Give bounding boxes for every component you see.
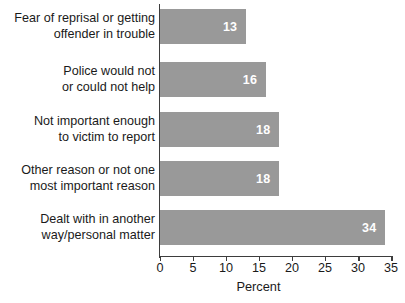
category-label: Not important enough to victim to report — [8, 114, 160, 145]
category-label-line: Fear of reprisal or getting — [8, 11, 155, 27]
bar-value-label: 18 — [256, 123, 270, 136]
bar-chart: Fear of reprisal or getting offender in … — [0, 0, 405, 303]
category-label-line: Dealt with in another — [8, 212, 155, 228]
x-tick-label: 5 — [189, 261, 196, 276]
category-label: Other reason or not one most important r… — [8, 163, 160, 194]
bar[interactable]: 18 — [160, 112, 279, 147]
bar[interactable]: 13 — [160, 9, 246, 44]
plot-area: 13 16 18 18 34 — [160, 4, 392, 257]
x-tick-label: 35 — [384, 261, 398, 276]
x-tick-label: 15 — [252, 261, 266, 276]
bar-value-label: 34 — [362, 221, 376, 234]
bar[interactable]: 34 — [160, 210, 385, 245]
category-axis-labels: Fear of reprisal or getting offender in … — [0, 0, 160, 303]
category-label-line: Not important enough — [8, 114, 155, 130]
x-tick-label: 10 — [219, 261, 233, 276]
bar-value-label: 18 — [256, 172, 270, 185]
x-tick-label: 20 — [285, 261, 299, 276]
x-tick-label: 0 — [156, 261, 163, 276]
category-label: Dealt with in another way/personal matte… — [8, 212, 160, 243]
x-axis-title: Percent — [236, 279, 280, 294]
x-axis-title-wrap: Percent — [0, 279, 405, 294]
category-label: Fear of reprisal or getting offender in … — [8, 11, 160, 42]
category-label-line: offender in trouble — [8, 27, 155, 43]
x-tick-label: 30 — [351, 261, 365, 276]
category-label-line: most important reason — [8, 179, 155, 195]
category-label-line: Other reason or not one — [8, 163, 155, 179]
category-label-line: or could not help — [8, 80, 155, 96]
bar[interactable]: 18 — [160, 161, 279, 196]
category-label-line: way/personal matter — [8, 228, 155, 244]
bar-value-label: 16 — [243, 73, 257, 86]
bar[interactable]: 16 — [160, 62, 266, 97]
x-tick-label: 25 — [318, 261, 332, 276]
category-label: Police would not or could not help — [8, 64, 160, 95]
category-label-line: Police would not — [8, 64, 155, 80]
category-label-line: to victim to report — [8, 130, 155, 146]
bar-value-label: 13 — [223, 20, 237, 33]
